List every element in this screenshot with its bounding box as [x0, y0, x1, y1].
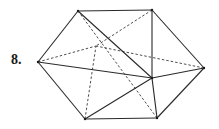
hidden-edge-bottom_left-hidden	[85, 46, 96, 119]
vertex-left	[37, 61, 39, 63]
visible-edges	[38, 10, 204, 119]
vertex-right	[203, 67, 205, 69]
edge-top_left-top_right	[78, 10, 152, 11]
polyhedron-diagram	[0, 0, 219, 129]
edge-top_left-front	[78, 11, 152, 78]
edge-bottom_right-bottom_left	[85, 118, 157, 119]
hidden-edge-top_left-bottom_right	[78, 11, 157, 118]
vertex-front	[151, 77, 153, 79]
vertex-top_left	[77, 10, 79, 12]
edge-bottom_left-left	[38, 62, 85, 119]
hidden-edge-left-hidden	[38, 46, 96, 62]
vertex-bottom_left	[84, 118, 86, 120]
vertex-top_right	[151, 9, 153, 11]
hidden-edges	[38, 10, 204, 119]
edge-left-top_left	[38, 11, 78, 62]
hidden-edge-top_right-hidden	[96, 10, 152, 46]
vertex-bottom_right	[156, 117, 158, 119]
vertices	[37, 9, 205, 120]
edge-left-front	[38, 62, 152, 78]
edge-bottom_left-front	[85, 78, 152, 119]
polyhedron-figure: 8.	[0, 0, 219, 129]
edge-bottom_right-front	[152, 78, 157, 118]
